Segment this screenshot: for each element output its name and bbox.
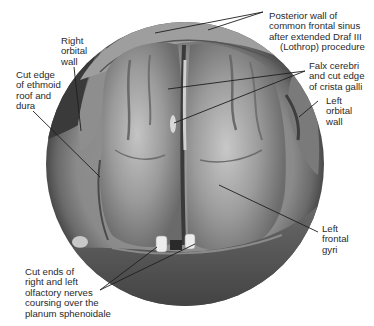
right-frontal-lobe [100,42,183,247]
label-line: gyri [322,245,349,255]
label-line: dura [16,101,61,111]
label-line: wall [326,117,352,127]
label-posterior-wall: Posterior wall of common frontal sinus a… [269,11,365,53]
right-olfactory-nerve-stump [156,236,167,252]
label-right-orbital-wall: Right orbital wall [61,36,87,67]
label-olfactory-nerves: Cut ends of right and left olfactory ner… [25,267,111,319]
label-line: of crista galli [309,82,364,92]
label-left-orbital-wall: Left orbital wall [326,96,352,127]
label-line: wall [61,57,87,67]
label-cut-edge-ethmoid: Cut edge of ethmoid roof and dura [16,70,61,112]
label-line: (Lothrop) procedure [269,42,365,52]
endoscopic-view-figure: Posterior wall of common frontal sinus a… [0,0,374,326]
left-frontal-lobe [187,44,286,251]
label-left-frontal-gyri: Left frontal gyri [322,224,349,255]
crista-galli [170,115,176,133]
falx-cerebri [184,60,185,150]
label-line: planum sphenoidale [25,309,111,319]
label-falx-cerebri: Falx cerebri and cut edge of crista gall… [309,61,364,92]
